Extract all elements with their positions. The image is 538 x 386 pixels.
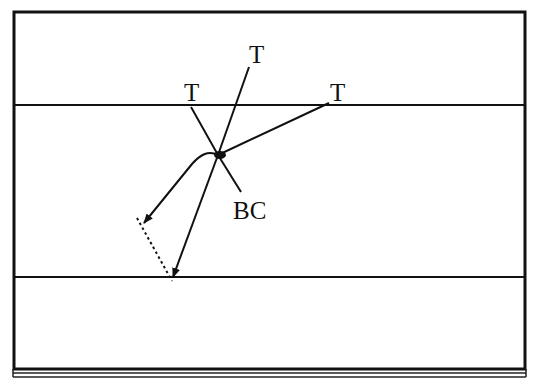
curved-arrow bbox=[144, 153, 218, 223]
label-right: T bbox=[330, 79, 345, 106]
ray-stub bbox=[218, 155, 241, 192]
ray-right bbox=[218, 103, 329, 155]
node-dot bbox=[214, 151, 226, 159]
straight-arrow bbox=[173, 155, 218, 277]
dotted-connector bbox=[137, 218, 172, 281]
diagram-canvas: T T T BC bbox=[0, 0, 538, 386]
label-stub: BC bbox=[233, 197, 266, 224]
label-top: T bbox=[249, 41, 264, 68]
label-left: T bbox=[184, 79, 199, 106]
ray-left bbox=[191, 107, 218, 155]
outer-frame bbox=[14, 12, 525, 369]
